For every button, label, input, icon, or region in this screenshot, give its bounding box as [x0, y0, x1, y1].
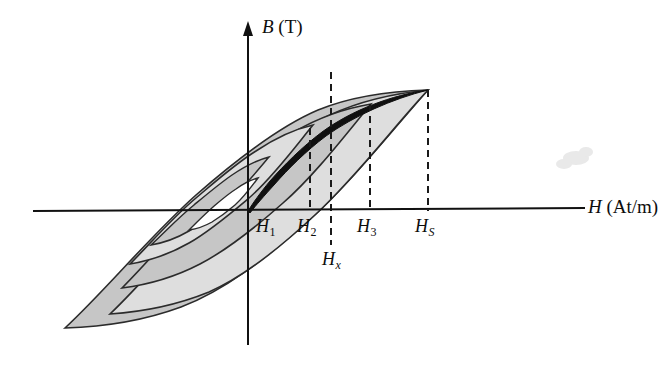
tick-hs-subscript: S	[429, 225, 435, 239]
tick-h1-symbol: H	[256, 216, 269, 236]
tick-h3-subscript: 3	[371, 225, 377, 239]
b-axis-label: B (T)	[262, 16, 303, 38]
tick-h2-subscript: 2	[311, 225, 317, 239]
tick-h3-symbol: H	[357, 216, 370, 236]
b-axis-arrowhead	[243, 21, 253, 36]
h-axis-label: H (At/m)	[588, 196, 658, 218]
tick-label-h1: H1	[256, 216, 275, 237]
tick-hx-subscript: x	[336, 258, 341, 272]
hysteresis-plot-svg	[0, 0, 672, 365]
hysteresis-figure: B (T) H (At/m) H1 H2 H3 HS Hx	[0, 0, 672, 365]
b-axis-unit: (T)	[278, 16, 302, 37]
tick-h2-symbol: H	[297, 216, 310, 236]
tick-label-hx: Hx	[322, 249, 340, 270]
tick-label-hs: HS	[415, 216, 434, 237]
h-axis-symbol: H	[588, 196, 602, 217]
tick-hx-symbol: H	[322, 249, 335, 269]
tick-label-h2: H2	[297, 216, 316, 237]
tick-label-h3: H3	[357, 216, 376, 237]
tick-hs-symbol: H	[415, 216, 428, 236]
scan-smudge-artifact	[556, 147, 593, 169]
tick-h1-subscript: 1	[270, 225, 276, 239]
b-axis-symbol: B	[262, 16, 274, 37]
h-axis-unit: (At/m)	[606, 196, 658, 217]
